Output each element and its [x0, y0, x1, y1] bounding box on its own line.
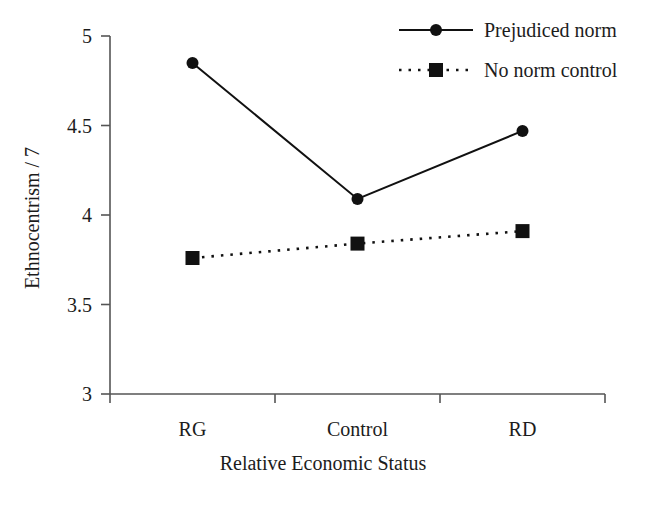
x-tick-label-rg: RG [179, 418, 207, 441]
x-tick-label-control: Control [327, 418, 388, 441]
legend-glyphs [399, 24, 473, 77]
series-prejudiced-norm [187, 57, 529, 205]
y-tick-label-5: 5 [48, 25, 92, 48]
series-no-norm-control-point-rg [186, 251, 200, 265]
legend-square-marker [429, 63, 443, 77]
y-tick-label-4: 4 [48, 204, 92, 227]
x-tick-label-rd: RD [509, 418, 537, 441]
legend-label-no-norm-control: No norm control [484, 59, 617, 82]
chart-figure: 5 4.5 4 3.5 3 RG Control RD Relative Eco… [0, 0, 646, 505]
series-prejudiced-norm-point-rg [187, 57, 199, 69]
y-axis-title: Ethnocentrism / 7 [21, 147, 44, 289]
y-tick-label-3-5: 3.5 [48, 293, 92, 316]
y-tick-label-4-5: 4.5 [48, 114, 92, 137]
axis-lines [110, 36, 605, 394]
series-no-norm-control-point-rd [516, 224, 530, 238]
legend-label-prejudiced-norm: Prejudiced norm [484, 19, 617, 42]
legend-circle-marker [430, 24, 442, 36]
series-prejudiced-norm-point-rd [517, 125, 529, 137]
x-axis-ticks [110, 394, 605, 403]
y-tick-label-3: 3 [48, 383, 92, 406]
x-axis-title: Relative Economic Status [220, 452, 427, 475]
series-prejudiced-norm-line [193, 63, 523, 199]
series-prejudiced-norm-point-control [352, 193, 364, 205]
y-axis-ticks [101, 36, 110, 394]
series-no-norm-control [186, 224, 530, 265]
series-no-norm-control-point-control [351, 237, 365, 251]
